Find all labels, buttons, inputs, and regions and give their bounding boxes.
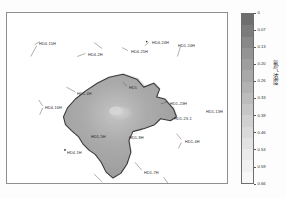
colorbar-tick-label-3: 0.20 bbox=[258, 62, 266, 66]
well-label-hd1: HD1 bbox=[129, 86, 137, 90]
colorbar-segment-13 bbox=[242, 160, 253, 171]
well-label-hd1-7h: HD1-7H bbox=[144, 171, 159, 175]
colorbar-tick-mark-1 bbox=[254, 30, 256, 31]
colorbar-tick-mark-4 bbox=[254, 81, 256, 82]
well-label-hd4-24h: HD4-24H bbox=[152, 41, 169, 45]
well-label-hd1-8h: HD1-8H bbox=[129, 136, 144, 140]
colorbar-tick-label-7: 0.46 bbox=[258, 131, 266, 135]
well-label-hd4-2h: HD4-2H bbox=[88, 53, 103, 57]
colorbar-segment-10 bbox=[242, 127, 253, 138]
colorbar-segment-12 bbox=[242, 149, 253, 160]
well-label-hd1-5h: HD1-5H bbox=[91, 135, 106, 139]
colorbar-tick-mark-8 bbox=[254, 149, 256, 150]
colorbar-tick-mark-5 bbox=[254, 98, 256, 99]
colorbar-segment-2 bbox=[242, 37, 253, 48]
colorbar-tick-label-8: 0.53 bbox=[258, 148, 266, 152]
colorbar: 00.070.130.200.260.330.390.460.530.590.6… bbox=[241, 13, 255, 184]
colorbar-segment-4 bbox=[242, 59, 253, 70]
concentration-core bbox=[109, 106, 123, 115]
well-label-hd1-23h: HD1-23H bbox=[170, 102, 187, 106]
colorbar-tick-mark-2 bbox=[254, 47, 256, 48]
colorbar-tick-label-6: 0.39 bbox=[258, 114, 266, 118]
colorbar-ticks: 00.070.130.200.260.330.390.460.530.590.6… bbox=[254, 13, 282, 184]
well-label-hd1-24h: HD1-24H bbox=[178, 44, 195, 48]
well-label-hd1-4h: HD1-4H bbox=[185, 140, 200, 144]
well-label-hd4-25h: HD4-25H bbox=[131, 50, 148, 54]
colorbar-tick-label-5: 0.33 bbox=[258, 96, 266, 100]
colorbar-tick-label-10: 0.66 bbox=[258, 182, 266, 186]
colorbar-gradient bbox=[241, 13, 254, 184]
colorbar-tick-label-0: 0 bbox=[258, 11, 260, 15]
colorbar-tick-mark-6 bbox=[254, 115, 256, 116]
well-label-hd4-24h: HD4-24H bbox=[105, 183, 122, 184]
colorbar-tick-mark-10 bbox=[254, 184, 256, 185]
colorbar-segment-6 bbox=[242, 82, 253, 93]
colorbar-tick-label-2: 0.13 bbox=[258, 45, 266, 49]
well-label-hd4-16h: HD4-16H bbox=[45, 106, 62, 110]
colorbar-tick-mark-7 bbox=[254, 132, 256, 133]
colorbar-tick-label-9: 0.59 bbox=[258, 165, 266, 169]
colorbar-tick-mark-9 bbox=[254, 167, 256, 168]
colorbar-segment-7 bbox=[242, 93, 253, 104]
colorbar-segment-8 bbox=[242, 104, 253, 115]
well-label-hd1-13h: HD1-13H bbox=[206, 110, 223, 114]
colorbar-segment-14 bbox=[242, 172, 253, 183]
colorbar-tick-mark-0 bbox=[254, 13, 256, 14]
colorbar-tick-label-1: 0.07 bbox=[258, 28, 266, 32]
colorbar-segment-0 bbox=[242, 14, 253, 25]
well-label-hd1-23-1: HD1-23-1 bbox=[174, 117, 192, 121]
colorbar-segment-3 bbox=[242, 48, 253, 59]
figure-canvas: HD4-15HHD4-2HHD4-25HHD4-24HHD1-24HHD1-4H… bbox=[0, 0, 286, 198]
colorbar-axis-title: 氡气浓度 bbox=[268, 60, 280, 86]
well-label-hd1-4h: HD1-4H bbox=[77, 92, 92, 96]
colorbar-tick-label-4: 0.26 bbox=[258, 79, 266, 83]
map-graphic bbox=[7, 13, 227, 183]
colorbar-segment-1 bbox=[242, 25, 253, 36]
well-label-hd4-15h: HD4-15H bbox=[39, 42, 56, 46]
colorbar-segment-5 bbox=[242, 70, 253, 81]
colorbar-tick-mark-3 bbox=[254, 64, 256, 65]
map-panel: HD4-15HHD4-2HHD4-25HHD4-24HHD1-24HHD1-4H… bbox=[6, 12, 228, 184]
colorbar-segment-9 bbox=[242, 115, 253, 126]
colorbar-segment-11 bbox=[242, 138, 253, 149]
well-label-hd4-1h: HD4-1H bbox=[67, 151, 82, 155]
